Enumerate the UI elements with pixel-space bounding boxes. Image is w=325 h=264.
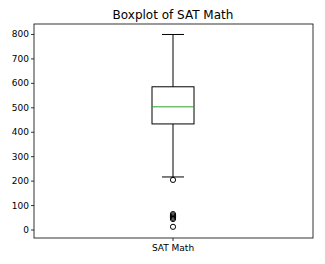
y-tick-label: 400	[12, 127, 29, 137]
x-axis: SAT Math	[152, 238, 194, 253]
x-tick-label: SAT Math	[152, 243, 194, 253]
y-tick-label: 100	[12, 201, 29, 211]
chart-title: Boxplot of SAT Math	[113, 8, 234, 22]
y-tick-label: 500	[12, 103, 29, 113]
y-tick-label: 700	[12, 54, 29, 64]
outlier-point	[170, 224, 175, 229]
y-tick-label: 200	[12, 176, 29, 186]
y-tick-label: 300	[12, 152, 29, 162]
boxplot-chart: Boxplot of SAT Math 01002003004005006007…	[0, 0, 325, 264]
y-tick-label: 600	[12, 78, 29, 88]
plot-area	[152, 34, 194, 229]
outlier-point	[170, 177, 175, 182]
y-tick-label: 800	[12, 29, 29, 39]
y-axis: 0100200300400500600700800	[12, 29, 34, 235]
y-tick-label: 0	[23, 225, 29, 235]
iqr-box	[152, 87, 194, 124]
